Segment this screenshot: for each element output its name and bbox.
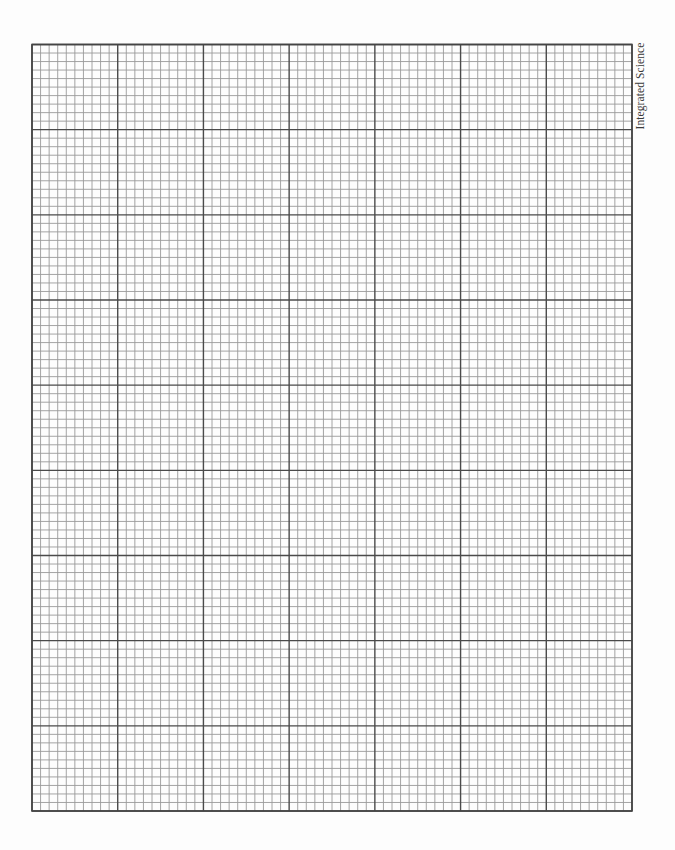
- subject-label: Integrated Science: [634, 42, 646, 129]
- minor-grid-lines: [32, 45, 632, 812]
- graph-grid: [0, 0, 675, 850]
- graph-paper-page: Integrated Science: [0, 0, 675, 850]
